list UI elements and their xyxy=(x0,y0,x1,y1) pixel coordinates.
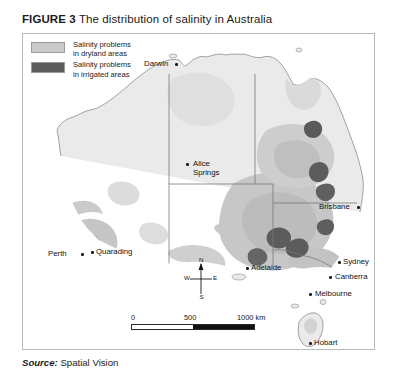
compass-rose: N S E W xyxy=(178,256,224,302)
city-dot-canberra xyxy=(329,276,332,279)
scalebar-tick-0: 0 xyxy=(131,313,135,322)
source-label: Source: xyxy=(22,357,58,368)
city-label-darwin: Darwin xyxy=(144,59,168,68)
source-value: Spatial Vision xyxy=(60,357,118,368)
king-island xyxy=(291,304,299,308)
source-line: Source: Spatial Vision xyxy=(22,357,118,368)
city-label-brisbane: Brisbane xyxy=(319,202,350,211)
scalebar-tick-500: 500 xyxy=(184,313,196,322)
torres-island xyxy=(296,48,302,52)
figure-block: FIGURE 3 The distribution of salinity in… xyxy=(0,0,394,383)
map-scalebar: 0 500 1000 km xyxy=(131,313,269,330)
city-dot-darwin xyxy=(175,63,178,66)
legend-label-dryland-line1: Salinity problems xyxy=(73,40,131,49)
city-label-quarading: Quarading xyxy=(96,247,132,256)
city-dot-melbourne xyxy=(309,293,312,296)
city-label-hobart: Hobart xyxy=(314,338,337,347)
figure-title: FIGURE 3 The distribution of salinity in… xyxy=(22,13,272,25)
city-dot-sydney xyxy=(338,261,341,264)
legend-item-irrigated: Salinity problems in irrigated areas xyxy=(31,60,131,78)
city-dot-perth xyxy=(81,253,84,256)
map-legend: Salinity problems in dryland areas Salin… xyxy=(31,40,131,81)
city-label-melbourne: Melbourne xyxy=(315,289,352,298)
scalebar-tick-1000: 1000 km xyxy=(237,313,265,322)
legend-label-irrigated-line1: Salinity problems xyxy=(73,60,131,69)
city-label-alice-springs: AliceSprings xyxy=(193,159,219,177)
legend-label-dryland-line2: in dryland areas xyxy=(73,49,127,58)
city-dot-adelaide xyxy=(246,267,249,270)
legend-swatch-irrigated xyxy=(31,62,65,73)
scalebar-bar xyxy=(131,324,255,330)
legend-label-irrigated: Salinity problems in irrigated areas xyxy=(73,60,131,78)
city-dot-hobart xyxy=(309,342,312,345)
city-label-perth: Perth xyxy=(48,249,67,258)
figure-caption: The distribution of salinity in Australi… xyxy=(79,13,272,25)
scalebar-segment-white xyxy=(132,325,193,329)
city-dot-alice-springs xyxy=(186,163,189,166)
figure-number: FIGURE 3 xyxy=(22,13,76,25)
city-dot-quarading xyxy=(91,251,94,254)
city-label-sydney: Sydney xyxy=(343,257,369,266)
compass-south: S xyxy=(200,293,204,300)
scalebar-segment-black xyxy=(193,325,254,329)
legend-label-irrigated-line2: in irrigated areas xyxy=(73,70,130,79)
kangaroo-island xyxy=(232,274,246,280)
legend-label-dryland: Salinity problems in dryland areas xyxy=(73,40,131,58)
irrigated-qld-3 xyxy=(304,121,322,138)
flinders-island xyxy=(320,300,326,305)
legend-swatch-dryland xyxy=(31,42,65,53)
city-dot-brisbane xyxy=(357,206,360,209)
city-label-canberra: Canberra xyxy=(335,272,368,281)
melville-island xyxy=(169,54,177,58)
map-frame: Salinity problems in dryland areas Salin… xyxy=(22,33,375,350)
compass-north: N xyxy=(199,256,203,263)
compass-east: E xyxy=(213,274,217,281)
city-label-adelaide: Adelaide xyxy=(251,263,281,272)
compass-west: W xyxy=(184,274,190,281)
scalebar-labels: 0 500 1000 km xyxy=(131,313,269,324)
legend-item-dryland: Salinity problems in dryland areas xyxy=(31,40,131,58)
